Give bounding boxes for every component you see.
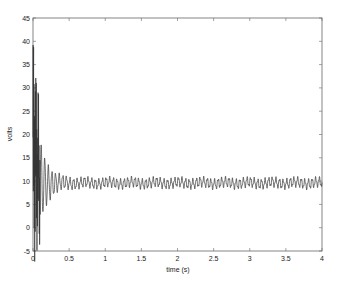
x-tick-label: 4 xyxy=(320,255,324,262)
line-chart: 00.511.522.533.54 -5051015202530354045 t… xyxy=(0,0,340,281)
y-tick-label: 25 xyxy=(22,108,30,115)
plot-axes xyxy=(33,18,322,251)
y-tick-label: 15 xyxy=(22,154,30,161)
x-tick-label: 1.5 xyxy=(137,255,147,262)
x-tick-label: 3.5 xyxy=(281,255,291,262)
x-tick-label: 1 xyxy=(103,255,107,262)
voltage-series-line xyxy=(33,45,322,261)
y-tick-label: -5 xyxy=(24,248,30,255)
y-tick-label: 10 xyxy=(22,178,30,185)
plot-frame xyxy=(33,18,322,251)
y-tick-label: 35 xyxy=(22,61,30,68)
y-tick-label: 20 xyxy=(22,131,30,138)
x-tick-label: 0.5 xyxy=(64,255,74,262)
y-axis-ticks: -5051015202530354045 xyxy=(22,15,322,255)
x-tick-label: 2.5 xyxy=(209,255,219,262)
y-tick-label: 45 xyxy=(22,15,30,22)
x-axis-label: time (s) xyxy=(166,266,189,274)
x-axis-ticks: 00.511.522.533.54 xyxy=(31,18,324,262)
y-tick-label: 30 xyxy=(22,84,30,91)
x-tick-label: 2 xyxy=(176,255,180,262)
y-tick-label: 40 xyxy=(22,38,30,45)
y-tick-label: 5 xyxy=(26,201,30,208)
x-tick-label: 3 xyxy=(248,255,252,262)
y-axis-label: volts xyxy=(6,126,13,141)
y-tick-label: 0 xyxy=(26,224,30,231)
